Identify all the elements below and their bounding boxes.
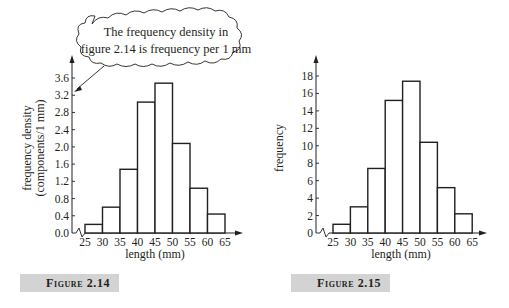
histogram-bar xyxy=(437,188,454,233)
x-tick-label: 65 xyxy=(466,236,478,248)
histogram-bar xyxy=(420,142,437,233)
y-tick-label: 12 xyxy=(302,122,314,134)
y-tick-label: 16 xyxy=(302,87,314,99)
figure-caption-2-14: Figure 2.14 xyxy=(20,274,119,292)
x-tick-label: 60 xyxy=(449,236,461,248)
y-tick-label: 4 xyxy=(307,192,313,204)
y-tick-label: 14 xyxy=(302,105,314,117)
x-axis-arrow-icon xyxy=(479,231,487,236)
histogram-bar xyxy=(368,168,385,233)
y-axis xyxy=(314,55,319,233)
x-axis-label: length (mm) xyxy=(371,247,431,261)
x-tick-label: 25 xyxy=(327,236,339,248)
x-tick-label: 55 xyxy=(432,236,444,248)
histogram-bar xyxy=(385,100,402,233)
y-tick-label: 18 xyxy=(302,70,314,82)
bars xyxy=(333,81,472,233)
histogram-bar xyxy=(455,214,472,233)
y-tick-label: 0 xyxy=(307,227,313,239)
y-axis-label: frequency xyxy=(272,124,286,172)
y-tick-label: 2 xyxy=(307,210,313,222)
histogram-bar xyxy=(333,224,350,233)
y-tick-label: 6 xyxy=(307,175,313,187)
x-tick-label: 30 xyxy=(345,236,357,248)
histogram-frequency: 024681012141618 253035404550556065 lengt… xyxy=(0,0,509,308)
histogram-bar xyxy=(350,207,367,233)
y-axis-arrow-icon xyxy=(314,55,319,63)
histogram-bar xyxy=(403,81,420,233)
y-tick-label: 8 xyxy=(307,157,313,169)
figure-caption-2-15: Figure 2.15 xyxy=(291,274,390,292)
y-tick-label: 10 xyxy=(302,140,314,152)
